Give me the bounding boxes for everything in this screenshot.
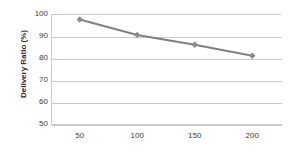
x-tick-label: 100	[117, 131, 157, 141]
delivery-ratio-line-chart: Delivery Ratio (%) 1009080706050 5010015…	[0, 0, 293, 153]
series-line	[80, 20, 253, 56]
y-tick-label: 80	[24, 54, 48, 62]
series-layer	[51, 14, 282, 125]
y-tick-label: 60	[24, 98, 48, 106]
data-point-marker	[192, 42, 198, 48]
x-tick-label: 50	[60, 131, 100, 141]
y-tick-label: 90	[24, 32, 48, 40]
data-point-marker	[134, 32, 140, 38]
y-tick-label: 50	[24, 120, 48, 128]
y-axis-tick-labels: 1009080706050	[24, 8, 48, 130]
y-tick-label: 100	[24, 10, 48, 18]
x-axis-tick-labels: 50100150200	[51, 131, 282, 145]
y-tick-label: 70	[24, 76, 48, 84]
x-tick-label: 150	[175, 131, 215, 141]
data-point-marker	[249, 53, 255, 59]
gridline	[52, 125, 282, 126]
data-point-marker	[77, 16, 83, 22]
x-tick-label: 200	[232, 131, 272, 141]
